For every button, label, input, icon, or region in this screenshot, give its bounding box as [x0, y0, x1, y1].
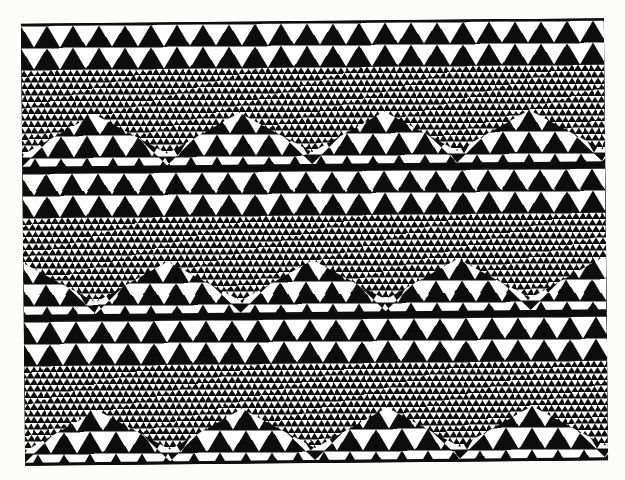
- band-chevron-field: [21, 64, 605, 168]
- band-top: [21, 18, 605, 170]
- texture-coarse-down: [22, 168, 605, 218]
- pattern-panel: [21, 18, 608, 466]
- band-header-rows: [21, 20, 604, 70]
- artboard: [0, 0, 625, 480]
- texture-coarse-down: [24, 316, 607, 366]
- band-bottom: [24, 314, 608, 466]
- texture-coarse-down: [21, 20, 604, 70]
- band-chevron-field: [23, 212, 607, 316]
- band-header-rows: [24, 316, 607, 366]
- band-chevron-field: [24, 360, 608, 464]
- band-middle: [22, 166, 606, 318]
- band-header-rows: [22, 168, 605, 218]
